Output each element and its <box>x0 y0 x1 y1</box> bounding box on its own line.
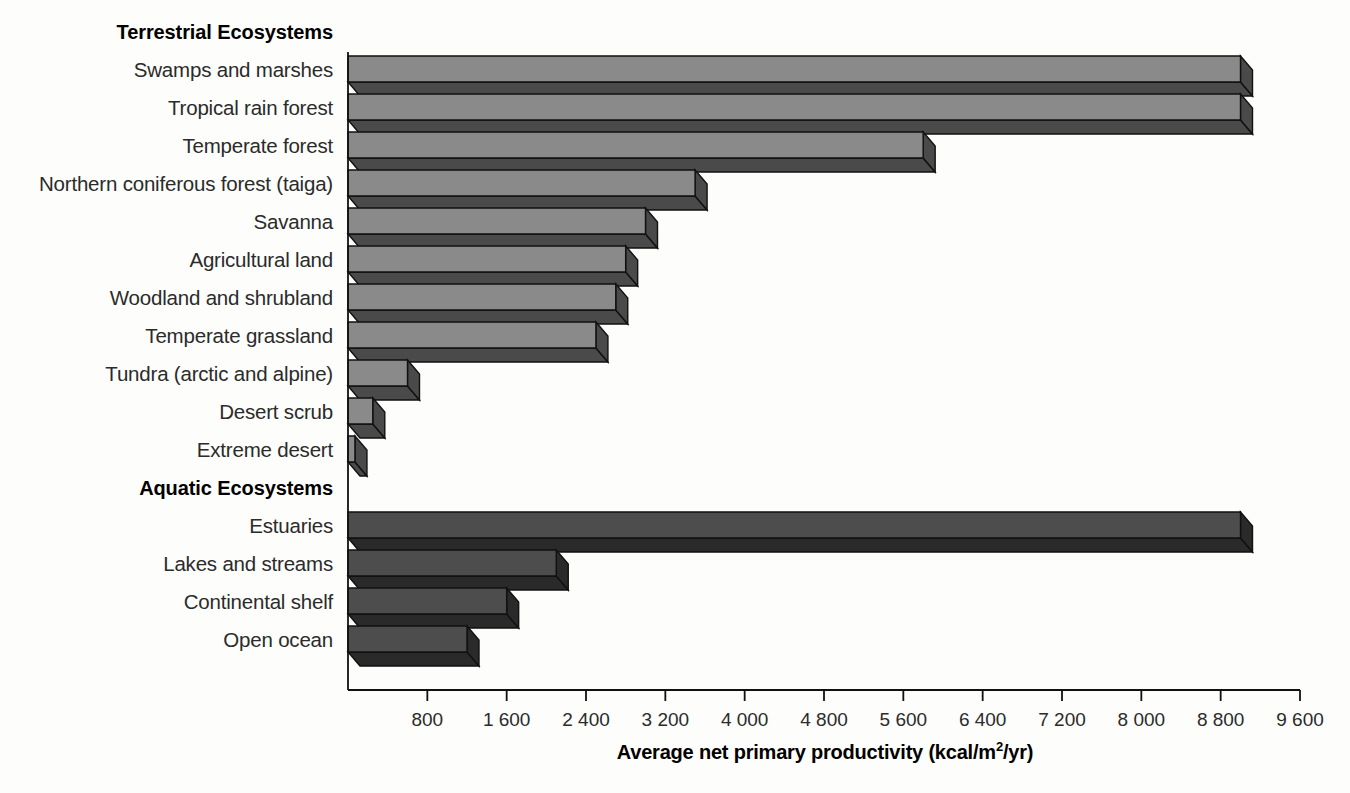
bar-3d-face <box>348 132 923 158</box>
bar-3d-face <box>348 208 646 234</box>
category-label: Tundra (arctic and alpine) <box>0 364 333 385</box>
bars-group <box>348 56 1253 666</box>
bar-3d-face <box>348 436 355 462</box>
category-label: Tropical rain forest <box>0 98 333 119</box>
x-tick-label: 4 000 <box>700 710 790 729</box>
bar-terrestrial-2 <box>348 132 935 172</box>
bar-terrestrial-9 <box>348 398 385 438</box>
bar-terrestrial-6 <box>348 284 628 324</box>
x-axis-title: Average net primary productivity (kcal/m… <box>0 742 1350 762</box>
bar-3d-face <box>348 170 695 196</box>
bar-aquatic-2 <box>348 588 519 628</box>
x-tick-label: 5 600 <box>858 710 948 729</box>
bar-3d-face <box>348 652 479 666</box>
category-label: Swamps and marshes <box>0 60 333 81</box>
category-label: Desert scrub <box>0 402 333 423</box>
x-tick-label: 4 800 <box>779 710 869 729</box>
bar-3d-face <box>348 588 507 614</box>
x-tick-label: 8 000 <box>1096 710 1186 729</box>
bar-aquatic-3 <box>348 626 479 666</box>
bar-terrestrial-5 <box>348 246 638 286</box>
x-tick-label: 800 <box>382 710 472 729</box>
bar-3d-face <box>348 284 616 310</box>
chart-canvas <box>0 0 1350 793</box>
bar-3d-face <box>348 360 408 386</box>
category-label: Temperate grassland <box>0 326 333 347</box>
x-tick-label: 1 600 <box>462 710 552 729</box>
bar-terrestrial-4 <box>348 208 658 248</box>
bar-3d-face <box>348 626 467 652</box>
bar-3d-face <box>348 56 1241 82</box>
x-tick-label: 2 400 <box>541 710 631 729</box>
x-tick-label: 6 400 <box>938 710 1028 729</box>
bar-aquatic-0 <box>348 512 1253 552</box>
bar-3d-face <box>348 512 1241 538</box>
category-label: Lakes and streams <box>0 554 333 575</box>
bar-3d-face <box>348 398 373 424</box>
bar-terrestrial-7 <box>348 322 608 362</box>
bar-3d-face <box>348 94 1241 120</box>
bar-terrestrial-1 <box>348 94 1253 134</box>
group-heading-label: Terrestrial Ecosystems <box>0 22 333 42</box>
npp-bar-chart: Terrestrial EcosystemsSwamps and marshes… <box>0 0 1350 793</box>
category-label: Northern coniferous forest (taiga) <box>0 174 333 195</box>
bar-3d-face <box>348 246 626 272</box>
x-tick-label: 7 200 <box>1017 710 1107 729</box>
category-label: Extreme desert <box>0 440 333 461</box>
category-label: Estuaries <box>0 516 333 537</box>
bar-terrestrial-8 <box>348 360 420 400</box>
category-label: Agricultural land <box>0 250 333 271</box>
bar-3d-face <box>348 550 556 576</box>
category-label: Open ocean <box>0 630 333 651</box>
category-label: Temperate forest <box>0 136 333 157</box>
bar-aquatic-1 <box>348 550 568 590</box>
category-label: Woodland and shrubland <box>0 288 333 309</box>
superscript-two: 2 <box>996 739 1003 754</box>
group-heading-label: Aquatic Ecosystems <box>0 478 333 498</box>
x-tick-label: 3 200 <box>620 710 710 729</box>
bar-terrestrial-0 <box>348 56 1253 96</box>
bar-terrestrial-3 <box>348 170 707 210</box>
bar-3d-face <box>348 322 596 348</box>
bar-terrestrial-10 <box>348 436 367 476</box>
category-label: Continental shelf <box>0 592 333 613</box>
x-tick-label: 8 800 <box>1176 710 1266 729</box>
category-label: Savanna <box>0 212 333 233</box>
x-tick-label: 9 600 <box>1255 710 1345 729</box>
